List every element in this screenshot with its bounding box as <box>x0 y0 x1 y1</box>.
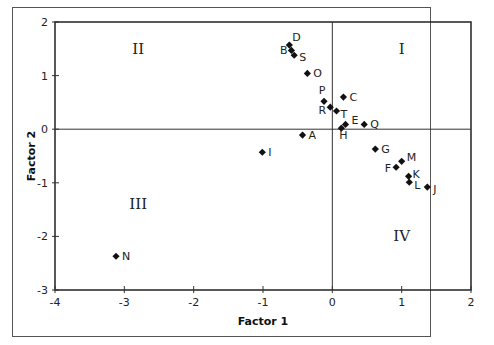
x-tick-label: -4 <box>50 296 61 309</box>
x-tick-label: -2 <box>188 296 199 309</box>
x-tick-label: 2 <box>468 296 475 309</box>
diamond-marker-icon <box>299 131 306 138</box>
scatter-chart: -4-3-2-1012 210-1-2-3 IIIIIIIV ABCDEFGHI… <box>0 0 494 345</box>
data-point-t: T <box>333 107 348 121</box>
point-label: N <box>122 250 130 263</box>
point-label: H <box>339 129 347 142</box>
data-point-r: R <box>319 104 334 118</box>
data-point-p: P <box>319 84 328 105</box>
point-label: E <box>352 114 359 127</box>
x-tick-label: -3 <box>119 296 130 309</box>
point-label: D <box>292 31 300 44</box>
quadrant-label: II <box>132 40 144 58</box>
data-point-f: F <box>385 162 400 175</box>
diamond-marker-icon <box>112 253 119 260</box>
diamond-marker-icon <box>393 164 400 171</box>
diamond-marker-icon <box>424 183 431 190</box>
quadrant-label: III <box>129 195 147 213</box>
quadrant-label: IV <box>393 227 411 245</box>
x-tick-label: 1 <box>398 296 405 309</box>
point-label: G <box>381 143 390 156</box>
point-label: S <box>299 51 306 64</box>
point-label: O <box>313 67 322 80</box>
data-points: ABCDEFGHIJKLMNOPQRST <box>112 31 436 263</box>
point-label: A <box>309 129 317 142</box>
data-point-j: J <box>424 183 437 196</box>
y-tick-label: -2 <box>37 230 48 243</box>
x-tick-label: -1 <box>258 296 269 309</box>
diamond-marker-icon <box>333 107 340 114</box>
diamond-marker-icon <box>361 121 368 128</box>
point-label: J <box>432 183 436 196</box>
y-tick-label: 2 <box>41 16 48 29</box>
x-axis-title: Factor 1 <box>238 315 289 328</box>
diamond-marker-icon <box>259 149 266 156</box>
data-point-c: C <box>340 91 358 104</box>
data-point-i: I <box>259 146 272 159</box>
point-label: C <box>349 91 357 104</box>
point-label: F <box>385 162 391 175</box>
point-label: P <box>319 84 326 97</box>
data-point-d: D <box>286 31 301 49</box>
quadrant-label: I <box>399 40 405 58</box>
point-label: M <box>407 151 417 164</box>
diamond-marker-icon <box>398 158 405 165</box>
diamond-marker-icon <box>340 93 347 100</box>
point-label: Q <box>370 118 379 131</box>
y-tick-label: 0 <box>41 123 48 136</box>
diamond-marker-icon <box>304 70 311 77</box>
y-axis-title: Factor 2 <box>25 131 38 182</box>
point-label: I <box>268 146 271 159</box>
y-tick-label: 1 <box>41 70 48 83</box>
data-point-n: N <box>112 250 130 263</box>
data-point-m: M <box>398 151 416 165</box>
point-label: B <box>280 44 288 57</box>
point-label: R <box>319 104 327 117</box>
x-tick-label: 0 <box>329 296 336 309</box>
diamond-marker-icon <box>405 173 412 180</box>
point-label: T <box>339 108 347 121</box>
data-point-a: A <box>299 129 317 142</box>
quadrant-labels: IIIIIIIV <box>129 40 411 246</box>
y-tick-label: -1 <box>37 177 48 190</box>
data-point-g: G <box>372 143 390 156</box>
data-point-o: O <box>304 67 323 80</box>
diamond-marker-icon <box>372 145 379 152</box>
point-label: L <box>414 179 421 192</box>
data-point-l: L <box>406 179 422 193</box>
y-tick-label: -3 <box>37 284 48 297</box>
data-point-s: S <box>291 51 307 64</box>
